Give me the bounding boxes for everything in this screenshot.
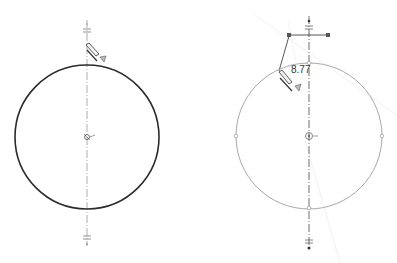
construction-line	[305, 140, 340, 263]
symmetry-constraint-icon	[305, 20, 313, 29]
sketch-canvas[interactable]	[0, 0, 397, 263]
drag-handle-icon[interactable]	[287, 33, 330, 37]
dimension-value[interactable]: 8.77	[291, 65, 310, 75]
center-point-icon	[84, 134, 95, 140]
center-point-icon	[306, 133, 319, 140]
right-sketch	[234, 15, 397, 263]
pencil-cursor-icon	[86, 43, 106, 62]
symmetry-constraint-icon	[83, 236, 91, 245]
left-sketch	[15, 20, 159, 246]
construction-line	[288, 20, 296, 62]
